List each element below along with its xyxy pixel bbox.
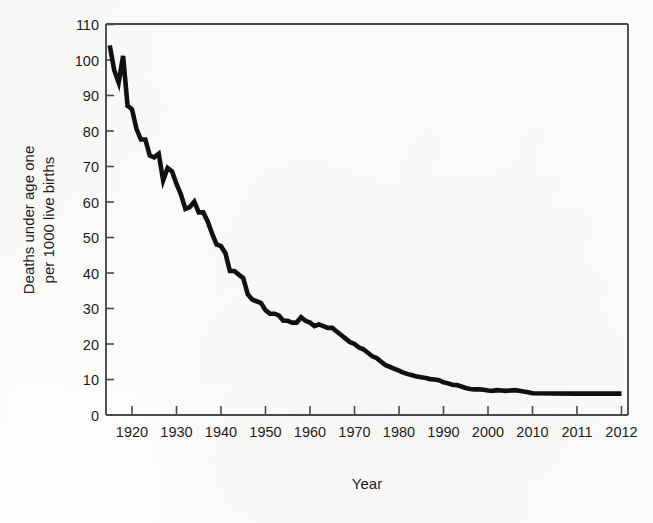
x-tick-label: 2012 (605, 424, 637, 440)
y-tick-label: 50 (83, 230, 99, 246)
x-tick-label: 1950 (249, 424, 281, 440)
x-axis-tick-labels: 1920 1930 1940 1950 1960 1970 1980 1990 … (116, 424, 638, 440)
x-tick-label: 2010 (516, 424, 548, 440)
y-tick-label: 40 (83, 266, 99, 282)
chart-plot-area: 0 10 20 30 40 50 60 70 80 90 100 110 (0, 0, 653, 523)
y-tick-label: 70 (83, 159, 99, 175)
x-tick-label: 1940 (205, 424, 237, 440)
y-axis-title-line2: per 1000 live births (40, 157, 57, 284)
x-axis-ticks (132, 406, 622, 415)
x-tick-label: 1960 (294, 424, 326, 440)
x-axis-title: Year (352, 475, 382, 492)
y-axis-title: Deaths under age one per 1000 live birth… (20, 146, 57, 294)
y-tick-label: 90 (83, 88, 99, 104)
infant-mortality-chart-figure: 0 10 20 30 40 50 60 70 80 90 100 110 (0, 0, 653, 523)
y-tick-label: 0 (91, 408, 99, 424)
y-tick-label: 80 (83, 124, 99, 140)
x-tick-label: 1930 (160, 424, 192, 440)
y-axis-title-line1: Deaths under age one (20, 146, 37, 294)
y-axis-tick-labels: 0 10 20 30 40 50 60 70 80 90 100 110 (75, 17, 99, 424)
x-tick-label: 1980 (383, 424, 415, 440)
y-tick-label: 100 (75, 53, 99, 69)
y-tick-label: 110 (76, 17, 99, 33)
y-tick-label: 20 (83, 337, 99, 353)
y-axis-ticks (106, 25, 114, 416)
axis-frame (106, 24, 628, 415)
y-tick-label: 30 (83, 301, 99, 317)
y-tick-label: 10 (83, 372, 99, 388)
x-tick-label: 2000 (472, 424, 504, 440)
x-tick-label: 1920 (116, 424, 148, 440)
y-tick-label: 60 (83, 195, 99, 211)
infant-mortality-line-series (110, 45, 622, 393)
x-tick-label: 1990 (427, 424, 459, 440)
x-tick-label: 1970 (338, 424, 370, 440)
x-tick-label: 2011 (561, 424, 592, 440)
